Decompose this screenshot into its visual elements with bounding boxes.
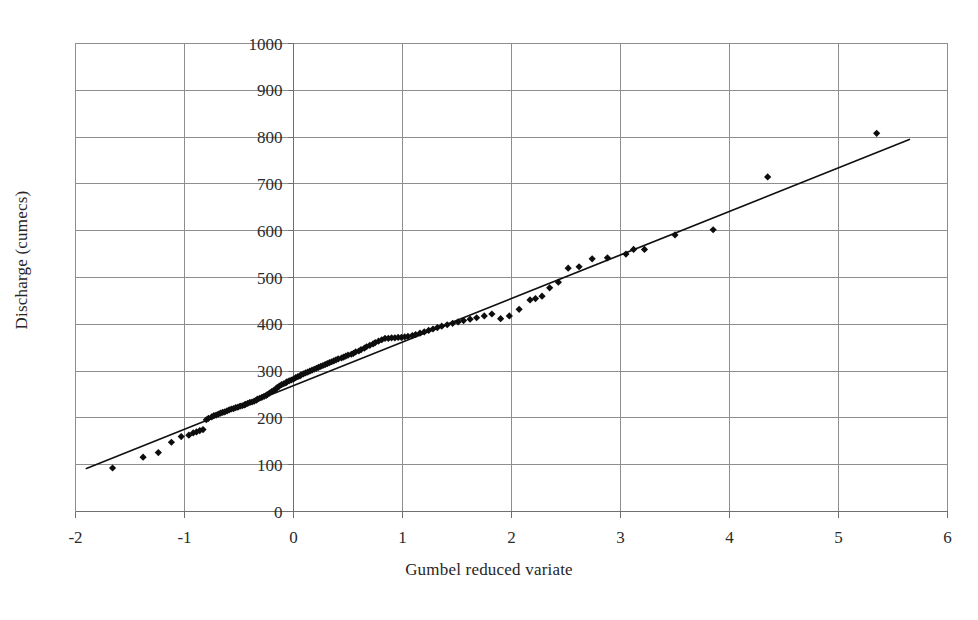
x-tick-label: 6 bbox=[943, 528, 952, 547]
x-tick-label: -1 bbox=[177, 528, 191, 547]
y-tick-label: 300 bbox=[257, 362, 283, 381]
data-point-marker bbox=[575, 263, 582, 270]
data-point-marker bbox=[532, 295, 539, 302]
x-tick-label: 4 bbox=[725, 528, 734, 547]
y-tick-label: 800 bbox=[257, 128, 283, 147]
x-tick-label: 0 bbox=[289, 528, 298, 547]
x-tick-label: 5 bbox=[834, 528, 843, 547]
data-point-marker bbox=[873, 130, 880, 137]
y-tick-label: 700 bbox=[257, 175, 283, 194]
x-axis-title: Gumbel reduced variate bbox=[0, 560, 978, 580]
gumbel-probability-plot: Discharge (cumecs) 010020030040050060070… bbox=[0, 0, 978, 620]
data-point-marker bbox=[516, 306, 523, 313]
data-point-marker bbox=[526, 296, 533, 303]
data-point-marker bbox=[630, 246, 637, 253]
data-point-marker bbox=[488, 310, 495, 317]
x-tick-label: 3 bbox=[616, 528, 625, 547]
plot-canvas: 01002003004005006007008009001000 -2-1012… bbox=[0, 0, 978, 620]
y-tick-label: 400 bbox=[257, 315, 283, 334]
y-tick-label: 900 bbox=[257, 81, 283, 100]
data-point-marker bbox=[444, 321, 451, 328]
gridlines bbox=[76, 44, 948, 512]
x-tick-labels: -2-10123456 bbox=[68, 528, 951, 547]
data-point-marker bbox=[589, 255, 596, 262]
x-tick-label: 1 bbox=[398, 528, 407, 547]
data-point-marker bbox=[546, 284, 553, 291]
x-tick-label: 2 bbox=[507, 528, 516, 547]
y-tick-label: 1000 bbox=[249, 35, 283, 54]
data-point-marker bbox=[497, 315, 504, 322]
y-tick-label: 600 bbox=[257, 222, 283, 241]
x-axis-title-text: Gumbel reduced variate bbox=[405, 560, 573, 579]
data-point-marker bbox=[538, 293, 545, 300]
y-tick-label: 200 bbox=[257, 409, 283, 428]
y-tick-label: 0 bbox=[274, 503, 283, 522]
data-point-marker bbox=[764, 173, 771, 180]
data-point-marker bbox=[168, 439, 175, 446]
y-tick-label: 100 bbox=[257, 456, 283, 475]
data-point-marker bbox=[481, 312, 488, 319]
data-point-marker bbox=[710, 226, 717, 233]
data-points bbox=[109, 130, 880, 472]
x-tick-label: -2 bbox=[68, 528, 82, 547]
data-point-marker bbox=[139, 454, 146, 461]
y-tick-label: 500 bbox=[257, 269, 283, 288]
data-point-marker bbox=[565, 265, 572, 272]
data-point-marker bbox=[109, 464, 116, 471]
data-point-marker bbox=[155, 449, 162, 456]
data-point-marker bbox=[473, 314, 480, 321]
data-point-marker bbox=[178, 433, 185, 440]
